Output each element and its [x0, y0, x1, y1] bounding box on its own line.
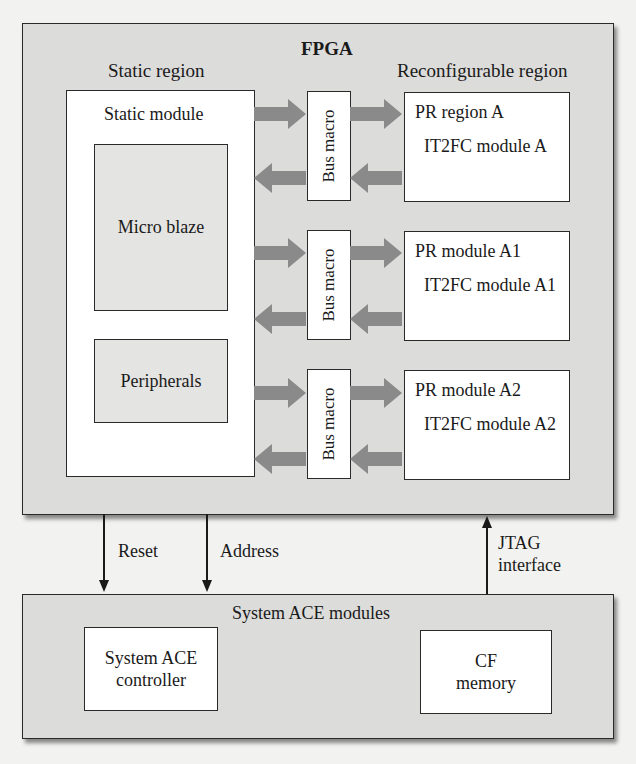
jtag-label-line1: JTAG — [498, 533, 541, 554]
bus-macro-2: Bus macro — [307, 230, 351, 340]
address-label: Address — [220, 541, 279, 562]
cf-memory: CF memory — [420, 630, 552, 714]
reset-label: Reset — [118, 541, 158, 562]
bus-macro-3: Bus macro — [307, 369, 351, 479]
cf-line2: memory — [456, 672, 516, 695]
bus-macro-1: Bus macro — [307, 91, 351, 201]
fpga-title: FPGA — [301, 38, 353, 60]
bus-macro-label: Bus macro — [319, 387, 339, 460]
peripherals-block: Peripherals — [94, 339, 228, 423]
cf-line1: CF — [475, 650, 497, 673]
system-ace-controller: System ACE controller — [84, 627, 218, 711]
micro-blaze-label: Micro blaze — [118, 216, 204, 239]
static-region-label: Static region — [108, 60, 205, 82]
micro-blaze-block: Micro blaze — [94, 144, 228, 311]
pr-region-a-module: IT2FC module A — [424, 136, 547, 157]
bus-macro-label: Bus macro — [319, 248, 339, 321]
pr-module-a2-module: IT2FC module A2 — [424, 414, 556, 435]
peripherals-label: Peripherals — [121, 370, 202, 393]
static-module-title: Static module — [104, 104, 203, 125]
bus-macro-label: Bus macro — [319, 109, 339, 182]
pr-module-a1-module: IT2FC module A1 — [424, 275, 556, 296]
pr-region-a-title: PR region A — [415, 102, 504, 123]
controller-line2: controller — [116, 669, 186, 692]
pr-module-a1-title: PR module A1 — [415, 241, 521, 262]
reconfigurable-region-label: Reconfigurable region — [397, 60, 567, 82]
system-ace-title: System ACE modules — [232, 603, 390, 624]
jtag-label-line2: interface — [498, 555, 561, 576]
pr-module-a2-title: PR module A2 — [415, 380, 521, 401]
controller-line1: System ACE — [105, 647, 198, 670]
